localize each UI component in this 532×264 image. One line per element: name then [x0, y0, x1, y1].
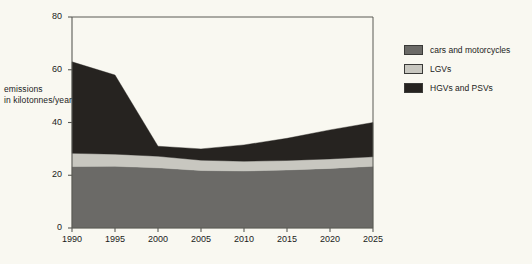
- legend-item-2[interactable]: HGVs and PSVs: [404, 80, 530, 95]
- x-tick-label-2: 2000: [141, 234, 175, 244]
- x-tick-label-4: 2010: [227, 234, 261, 244]
- y-tick-label-0: 0: [42, 222, 62, 232]
- x-tick-label-5: 2015: [270, 234, 304, 244]
- x-tick-label-7: 2025: [356, 234, 390, 244]
- x-tick-label-0: 1990: [55, 234, 89, 244]
- x-tick-label-6: 2020: [313, 234, 347, 244]
- legend-label-2: HGVs and PSVs: [430, 83, 493, 93]
- y-tick-label-1: 20: [42, 169, 62, 179]
- chart-legend: cars and motorcyclesLGVsHGVs and PSVs: [404, 42, 530, 99]
- legend-label-0: cars and motorcycles: [430, 45, 510, 55]
- legend-swatch-icon-2: [404, 83, 423, 93]
- emissions-stacked-area-chart: emissions in kilotonnes/year 020406080 1…: [0, 0, 532, 264]
- y-tick-label-3: 60: [42, 64, 62, 74]
- legend-item-1[interactable]: LGVs: [404, 61, 530, 76]
- y-axis-title-line-1: emissions: [4, 84, 74, 95]
- legend-item-0[interactable]: cars and motorcycles: [404, 42, 530, 57]
- legend-label-1: LGVs: [430, 64, 451, 74]
- y-axis-title-line-2: in kilotonnes/year: [4, 95, 74, 106]
- legend-swatch-icon-0: [404, 45, 423, 55]
- area-series-2: [72, 62, 373, 161]
- y-axis-title: emissions in kilotonnes/year: [4, 84, 74, 106]
- area-series-0: [72, 166, 373, 228]
- y-tick-label-4: 80: [42, 11, 62, 21]
- y-tick-label-2: 40: [42, 117, 62, 127]
- x-tick-label-1: 1995: [98, 234, 132, 244]
- plot-area: [0, 0, 532, 264]
- x-tick-label-3: 2005: [184, 234, 218, 244]
- legend-swatch-icon-1: [404, 64, 423, 74]
